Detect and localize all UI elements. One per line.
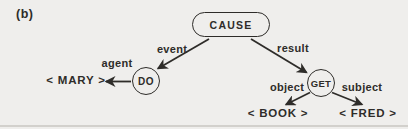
semantic-tree-diagram: (b) CAUSE DO GET event result agent obje… (0, 0, 408, 129)
scan-edge-line (0, 125, 408, 127)
edge-label-event: event (157, 43, 187, 55)
edge-label-result: result (277, 42, 309, 54)
node-do: DO (132, 67, 160, 95)
edge-label-object: object (270, 81, 304, 93)
node-cause: CAUSE (192, 12, 270, 37)
terminal-book: < BOOK > (248, 107, 309, 119)
edge-label-subject: subject (342, 81, 383, 93)
node-get: GET (307, 69, 335, 97)
terminal-mary: < MARY > (46, 74, 105, 86)
edge-label-agent: agent (102, 57, 133, 69)
panel-label: (b) (16, 7, 33, 21)
terminal-fred: < FRED > (339, 107, 397, 119)
edge-subject-arrow (332, 93, 362, 105)
edge-object-arrow (286, 93, 310, 105)
